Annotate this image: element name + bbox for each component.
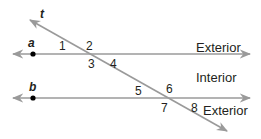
angle-6-label: 6 xyxy=(166,82,173,96)
point-a xyxy=(30,51,35,56)
line-a-label: a xyxy=(28,36,35,50)
parallel-lines-diagram: a b t 1 2 3 4 5 6 7 8 Exterior Interior … xyxy=(0,0,261,139)
angle-2-label: 2 xyxy=(86,39,93,53)
angle-5-label: 5 xyxy=(135,84,142,98)
line-b-label: b xyxy=(29,80,36,94)
exterior-bottom-label: Exterior xyxy=(203,103,248,118)
angle-1-label: 1 xyxy=(59,39,66,53)
transversal-t-label: t xyxy=(40,7,45,21)
angle-8-label: 8 xyxy=(191,101,198,115)
interior-label: Interior xyxy=(196,70,237,85)
angle-3-label: 3 xyxy=(88,57,95,71)
angle-7-label: 7 xyxy=(161,101,168,115)
angle-4-label: 4 xyxy=(110,57,117,71)
exterior-top-label: Exterior xyxy=(196,40,241,55)
point-b xyxy=(30,95,35,100)
